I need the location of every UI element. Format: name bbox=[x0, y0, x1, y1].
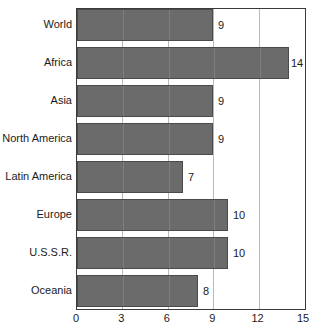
value-axis-labels: 0 3 6 9 12 15 bbox=[76, 312, 306, 330]
bar-gridline bbox=[169, 124, 170, 154]
xtick-6: 6 bbox=[164, 312, 170, 324]
xtick-12: 12 bbox=[251, 312, 263, 324]
bar-gridline bbox=[260, 48, 261, 78]
bar-gridline bbox=[123, 86, 124, 116]
bar-africa[interactable] bbox=[77, 47, 289, 79]
category-label-oceania: Oceania bbox=[31, 274, 72, 306]
bar-value-ussr: 10 bbox=[233, 247, 245, 259]
category-label-asia: Asia bbox=[51, 84, 72, 116]
bar-gridline bbox=[169, 10, 170, 40]
bar-ussr[interactable] bbox=[77, 237, 228, 269]
bar-gridline bbox=[169, 162, 170, 192]
bar-gridline bbox=[123, 48, 124, 78]
bars-layer: 9 14 9 bbox=[77, 9, 305, 309]
bar-gridline bbox=[123, 200, 124, 230]
bar-gridline bbox=[214, 48, 215, 78]
bar-gridline bbox=[123, 276, 124, 306]
bar-chart: World Africa Asia North America Latin Am… bbox=[0, 0, 314, 333]
bar-gridline bbox=[169, 200, 170, 230]
bar-oceania[interactable] bbox=[77, 275, 198, 307]
bar-gridline bbox=[169, 86, 170, 116]
xtick-0: 0 bbox=[73, 312, 79, 324]
bar-gridline bbox=[123, 162, 124, 192]
category-label-ussr: U.S.S.R. bbox=[29, 236, 72, 268]
bar-value-north-america: 9 bbox=[218, 133, 224, 145]
xtick-3: 3 bbox=[118, 312, 124, 324]
bar-gridline bbox=[169, 238, 170, 268]
bar-asia[interactable] bbox=[77, 85, 213, 117]
bar-europe[interactable] bbox=[77, 199, 228, 231]
bar-gridline bbox=[169, 276, 170, 306]
xtick-15: 15 bbox=[297, 312, 309, 324]
bar-gridline bbox=[123, 10, 124, 40]
bar-gridline bbox=[214, 200, 215, 230]
bar-value-oceania: 8 bbox=[203, 285, 209, 297]
bar-latin-america[interactable] bbox=[77, 161, 183, 193]
bar-value-latin-america: 7 bbox=[188, 171, 194, 183]
bar-world[interactable] bbox=[77, 9, 213, 41]
category-label-europe: Europe bbox=[37, 198, 72, 230]
bar-gridline bbox=[123, 124, 124, 154]
plot-area: 9 14 9 bbox=[76, 8, 306, 310]
category-label-africa: Africa bbox=[44, 46, 72, 78]
bar-gridline bbox=[214, 238, 215, 268]
category-label-latin-america: Latin America bbox=[5, 160, 72, 192]
category-axis-labels: World Africa Asia North America Latin Am… bbox=[0, 8, 72, 310]
bar-gridline bbox=[123, 238, 124, 268]
category-label-world: World bbox=[43, 8, 72, 40]
category-label-north-america: North America bbox=[2, 122, 72, 154]
bar-value-world: 9 bbox=[218, 19, 224, 31]
bar-value-asia: 9 bbox=[218, 95, 224, 107]
xtick-9: 9 bbox=[209, 312, 215, 324]
bar-value-africa: 14 bbox=[291, 57, 303, 69]
bar-gridline bbox=[169, 48, 170, 78]
bar-north-america[interactable] bbox=[77, 123, 213, 155]
bar-value-europe: 10 bbox=[233, 209, 245, 221]
